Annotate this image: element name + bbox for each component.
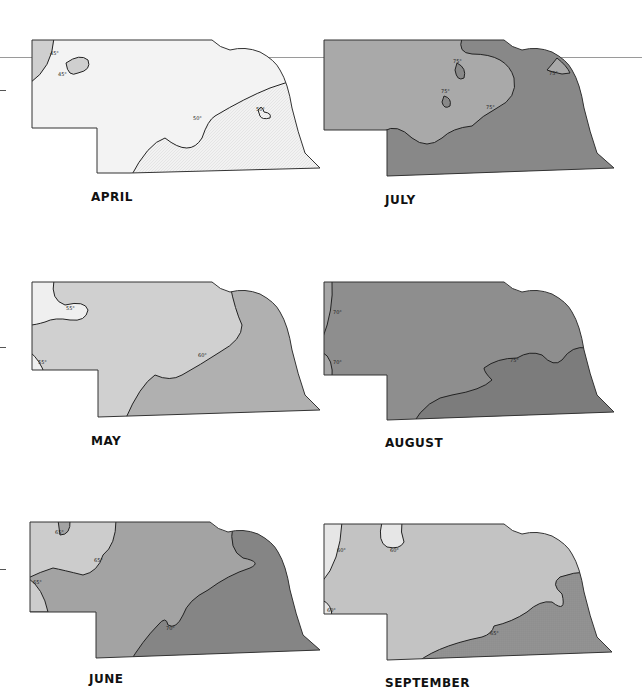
map-may: 55° 55° 60° bbox=[30, 280, 330, 425]
month-label-june: JUNE bbox=[89, 672, 123, 686]
month-label-july: JULY bbox=[385, 193, 416, 207]
isotherm-label: 75° bbox=[441, 88, 450, 94]
month-label-april: APRIL bbox=[91, 190, 133, 204]
month-label-august: AUGUST bbox=[385, 436, 443, 450]
isotherm-label: 45° bbox=[58, 71, 67, 77]
nebraska-map-september: 60° 60° 60° 65° bbox=[322, 522, 622, 667]
margin-tick bbox=[0, 90, 6, 91]
isotherm-label: 65° bbox=[94, 557, 103, 563]
month-label-september: SEPTEMBER bbox=[385, 676, 470, 689]
isotherm-label: 55° bbox=[66, 305, 75, 311]
isotherm-label: 75° bbox=[510, 357, 519, 363]
nebraska-map-june: 65° 65° 65° 70° bbox=[28, 520, 328, 665]
map-april: 45° 45° 50° 50° bbox=[30, 38, 330, 183]
nebraska-map-july: 75° 75° 75° 75° bbox=[322, 38, 622, 183]
isotherm-label: 70° bbox=[333, 309, 342, 315]
nebraska-map-may: 55° 55° 60° bbox=[30, 280, 330, 425]
isotherm-label: 60° bbox=[198, 352, 207, 358]
nebraska-map-august: 70° 70° 75° bbox=[322, 280, 622, 425]
nebraska-map-april: 45° 45° 50° 50° bbox=[30, 38, 330, 183]
isotherm-label: 70° bbox=[166, 625, 175, 631]
map-june: 65° 65° 65° 70° bbox=[28, 520, 328, 665]
isotherm-label: 45° bbox=[50, 50, 59, 56]
margin-tick bbox=[0, 347, 6, 348]
isotherm-label: 50° bbox=[256, 106, 265, 112]
isotherm-label: 75° bbox=[486, 104, 495, 110]
isotherm-label: 60° bbox=[327, 607, 336, 613]
margin-tick bbox=[0, 569, 6, 570]
map-september: 60° 60° 60° 65° bbox=[322, 522, 622, 667]
isotherm-label: 70° bbox=[333, 359, 342, 365]
isotherm-label: 65° bbox=[490, 630, 499, 636]
isotherm-label: 65° bbox=[33, 579, 42, 585]
isotherm-label: 55° bbox=[38, 359, 47, 365]
month-label-may: MAY bbox=[91, 434, 121, 448]
isotherm-label: 60° bbox=[390, 547, 399, 553]
isotherm-label: 60° bbox=[337, 547, 346, 553]
map-july: 75° 75° 75° 75° bbox=[322, 38, 622, 183]
map-august: 70° 70° 75° bbox=[322, 280, 622, 425]
isotherm-label: 75° bbox=[549, 70, 558, 76]
isotherm-label: 65° bbox=[55, 529, 64, 535]
isotherm-label: 75° bbox=[453, 58, 462, 64]
isotherm-label: 50° bbox=[193, 115, 202, 121]
